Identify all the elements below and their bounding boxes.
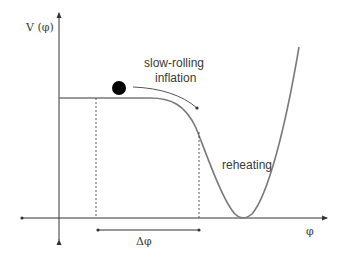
inflation-potential-diagram: V (φ) φ slow-rolling inflation reheating… [0, 0, 345, 257]
inflaton-ball [112, 81, 126, 95]
y-axis-label: V (φ) [26, 22, 54, 33]
inflation-label: inflation [155, 72, 196, 84]
slow-rolling-label: slow-rolling [144, 57, 204, 69]
diagram-canvas [0, 0, 345, 257]
x-axis-label: φ [306, 226, 314, 237]
reheating-label: reheating [222, 159, 272, 171]
delta-phi-label: Δφ [136, 236, 152, 247]
delta-phi-bounds [96, 98, 199, 218]
